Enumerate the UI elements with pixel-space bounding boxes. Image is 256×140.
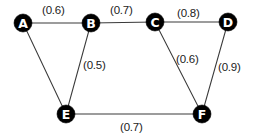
- node-label-d: D: [223, 15, 233, 30]
- edge-weight-c-d: (0.8): [177, 7, 200, 19]
- edge-weight-a-b: (0.6): [42, 4, 65, 16]
- edge-b-c: [91, 22, 155, 23]
- edge-weight-b-c: (0.7): [110, 4, 133, 16]
- node-b: B: [82, 14, 100, 32]
- edge-a-e: [23, 23, 66, 114]
- node-layer: ABCDEF: [14, 13, 237, 123]
- node-c: C: [146, 13, 164, 31]
- edge-weight-e-f: (0.7): [120, 121, 143, 133]
- node-label-a: A: [18, 16, 28, 31]
- node-d: D: [219, 13, 237, 31]
- edge-weight-c-f: (0.6): [176, 53, 199, 65]
- edge-weight-b-e: (0.5): [83, 59, 106, 71]
- node-label-b: B: [86, 16, 96, 31]
- node-label-e: E: [62, 107, 71, 122]
- edge-c-f: [155, 22, 202, 114]
- edge-weight-d-f: (0.9): [218, 61, 241, 73]
- node-f: F: [193, 105, 211, 123]
- node-a: A: [14, 14, 32, 32]
- edge-layer: [23, 22, 228, 114]
- node-label-c: C: [150, 15, 159, 30]
- graph-diagram: ABCDEF (0.6)(0.7)(0.8)(0.5)(0.6)(0.9)(0.…: [0, 0, 256, 140]
- node-e: E: [57, 105, 75, 123]
- node-label-f: F: [198, 107, 207, 122]
